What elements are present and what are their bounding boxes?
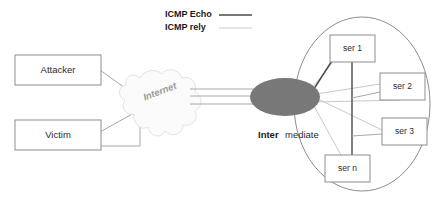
server-label-sern: ser n — [338, 163, 357, 173]
legend: ICMP Echo ICMP rely — [165, 9, 252, 32]
network-diagram: Internet Attacker Victim Inter mediate s… — [0, 0, 444, 206]
server-label-ser1: ser 1 — [343, 43, 362, 53]
server-label-ser2: ser 2 — [393, 81, 412, 91]
legend-label-icmp-echo: ICMP Echo — [165, 9, 212, 19]
link-intermediate-to-ser2-rely — [316, 84, 380, 94]
victim-label: Victim — [45, 129, 71, 140]
internet-cloud-shape — [119, 70, 201, 136]
legend-label-icmp-rely: ICMP rely — [165, 22, 206, 32]
link-spine-to-ser3 — [352, 134, 382, 136]
link-intermediate-to-ser3-rely — [316, 98, 382, 130]
intermediate-label-plain: mediate — [285, 129, 319, 140]
attacker-label: Attacker — [41, 64, 76, 75]
diagram-canvas: Internet Attacker Victim Inter mediate s… — [0, 0, 444, 206]
intermediate-ellipse[interactable] — [250, 78, 320, 116]
server-label-ser3: ser 3 — [395, 126, 414, 136]
link-spine-to-ser2 — [352, 92, 380, 98]
intermediate-label-bold: Inter — [258, 129, 279, 140]
